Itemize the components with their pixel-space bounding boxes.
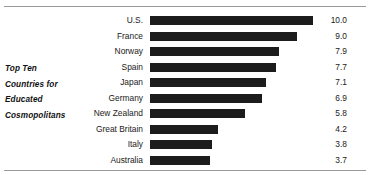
bottom-rule	[4, 170, 366, 171]
table-row: Germany6.9	[0, 91, 370, 107]
table-row: Spain7.7	[0, 60, 370, 76]
table-row: Great Britain4.2	[0, 122, 370, 138]
table-row: Italy3.8	[0, 137, 370, 153]
table-row: Japan7.1	[0, 75, 370, 91]
bar-track	[150, 47, 313, 56]
bar-track	[150, 156, 313, 165]
chart-figure: Top Ten Countries for Educated Cosmopoli…	[0, 0, 370, 175]
bar-value-label: 3.8	[307, 137, 347, 153]
bar	[150, 156, 210, 165]
bar-value-label: 4.2	[307, 122, 347, 138]
bar-value-label: 7.1	[307, 75, 347, 91]
bar-category-label: U.S.	[0, 13, 143, 29]
bar-category-label: Norway	[0, 44, 143, 60]
bar-track	[150, 16, 313, 25]
bar-track	[150, 140, 313, 149]
table-row: Australia3.7	[0, 153, 370, 169]
table-row: U.S.10.0	[0, 13, 370, 29]
bar-category-label: Spain	[0, 60, 143, 76]
bar-track	[150, 109, 313, 118]
bar-rows: U.S.10.0France9.0Norway7.9Spain7.7Japan7…	[0, 13, 370, 168]
bar-value-label: 7.9	[307, 44, 347, 60]
bar	[150, 125, 218, 134]
table-row: Norway7.9	[0, 44, 370, 60]
bar-category-label: Italy	[0, 137, 143, 153]
bar-category-label: Great Britain	[0, 122, 143, 138]
bar	[150, 94, 262, 103]
bar-track	[150, 125, 313, 134]
bar-category-label: New Zealand	[0, 106, 143, 122]
bar-value-label: 9.0	[307, 29, 347, 45]
bar-category-label: Germany	[0, 91, 143, 107]
bar	[150, 140, 212, 149]
bar	[150, 109, 245, 118]
bar-track	[150, 32, 313, 41]
bar-value-label: 3.7	[307, 153, 347, 169]
bar-track	[150, 94, 313, 103]
bar	[150, 32, 297, 41]
bar	[150, 47, 279, 56]
bar-value-label: 5.8	[307, 106, 347, 122]
bar	[150, 78, 266, 87]
bar-track	[150, 63, 313, 72]
bar-value-label: 6.9	[307, 91, 347, 107]
bar	[150, 16, 313, 25]
bar-category-label: France	[0, 29, 143, 45]
bar	[150, 63, 276, 72]
table-row: France9.0	[0, 29, 370, 45]
bar-category-label: Japan	[0, 75, 143, 91]
table-row: New Zealand5.8	[0, 106, 370, 122]
bar-value-label: 10.0	[307, 13, 347, 29]
bar-track	[150, 78, 313, 87]
bar-value-label: 7.7	[307, 60, 347, 76]
top-rule	[4, 6, 366, 7]
bar-category-label: Australia	[0, 153, 143, 169]
